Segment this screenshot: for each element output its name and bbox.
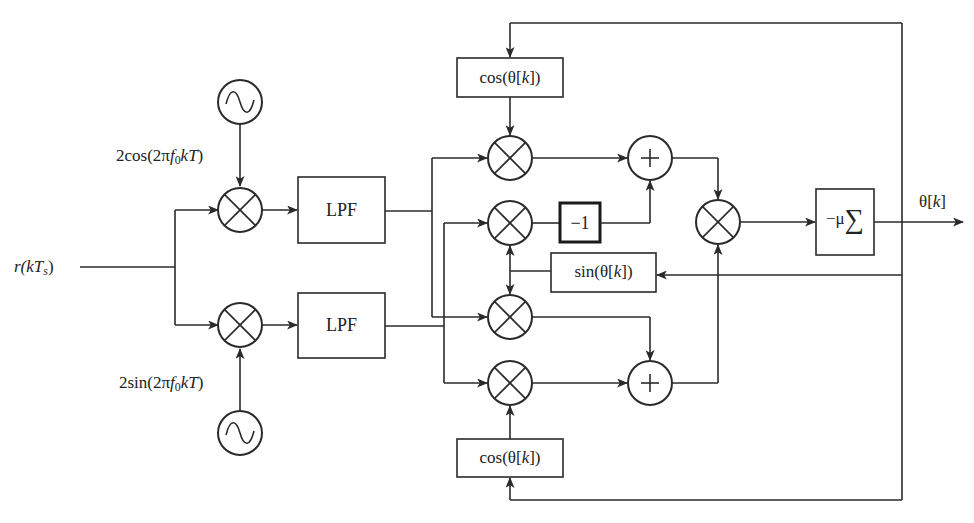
oscillator-cos (218, 80, 262, 186)
multiplier-1 (488, 136, 532, 180)
adder-bottom (628, 361, 672, 405)
oscillator-sin-label: 2sin(2πf0kT) (119, 374, 203, 394)
cos-theta-top-label: cos(θ[k]) (457, 69, 563, 86)
multiplier-3 (488, 295, 532, 339)
multiplier-4 (488, 361, 532, 405)
adder-top (628, 136, 672, 180)
lpf-top-bus (385, 158, 487, 317)
mixer-sin (218, 303, 262, 347)
oscillator-sin (218, 349, 262, 455)
multiplier-2 (488, 201, 532, 245)
output-label: θ[k] (919, 193, 946, 210)
integrator-label: −μ∑ (816, 206, 874, 233)
mixer-cos (218, 188, 262, 232)
input-wire (80, 210, 218, 325)
oscillator-cos-label: 2cos(2πf0kT) (116, 147, 203, 167)
lpf-bottom-bus (385, 223, 487, 383)
input-label: r(kTs) (14, 258, 54, 278)
multiplier-final (696, 200, 740, 244)
lpf-top-label: LPF (298, 201, 385, 219)
cos-theta-bottom-label: cos(θ[k]) (457, 449, 563, 466)
lpf-bottom-label: LPF (298, 316, 385, 334)
sin-theta-label: sin(θ[k]) (551, 263, 656, 280)
negate-label: −1 (560, 214, 600, 232)
